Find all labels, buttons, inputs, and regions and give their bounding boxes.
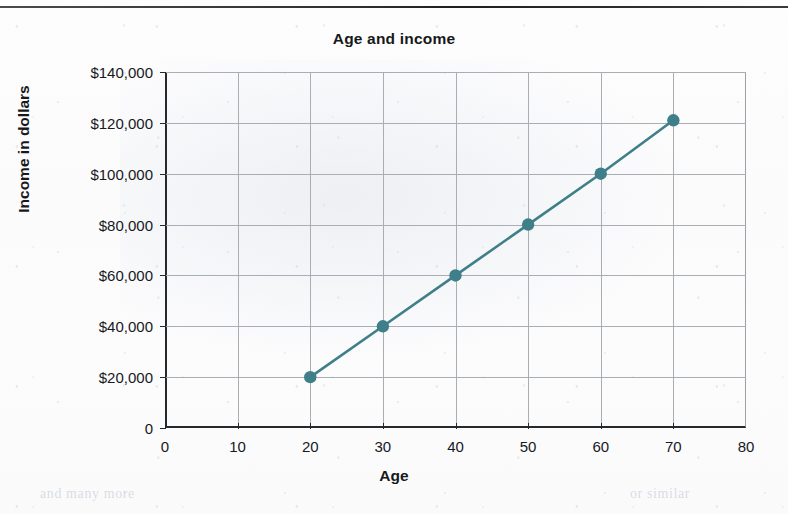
y-tick-label: $140,000: [53, 64, 153, 81]
x-tick-label: 0: [161, 438, 169, 455]
plot-area: [165, 72, 746, 428]
x-tick-mark: [673, 423, 674, 429]
y-tick-label: $60,000: [53, 267, 153, 284]
y-tick-label: $20,000: [53, 369, 153, 386]
x-tick-mark: [528, 423, 529, 429]
x-tick-label: 60: [592, 438, 609, 455]
y-tick-mark: [160, 377, 166, 378]
y-tick-label: $120,000: [53, 114, 153, 131]
x-tick-mark: [383, 423, 384, 429]
y-tick-mark: [160, 123, 166, 124]
x-tick-label: 10: [229, 438, 246, 455]
chart-title: Age and income: [0, 30, 788, 48]
y-tick-label: $40,000: [53, 318, 153, 335]
data-point-marker: [377, 320, 389, 332]
y-tick-mark: [160, 326, 166, 327]
y-axis-label: Income in dollars: [15, 29, 33, 269]
ghost-text-right: or similar: [630, 486, 690, 502]
y-tick-mark: [160, 174, 166, 175]
data-series-layer: [165, 72, 746, 428]
x-tick-mark: [456, 423, 457, 429]
series-line: [310, 120, 673, 377]
y-tick-label: $100,000: [53, 165, 153, 182]
x-tick-label: 70: [665, 438, 682, 455]
x-axis-label: Age: [0, 467, 788, 485]
data-point-marker: [595, 168, 607, 180]
x-tick-label: 30: [375, 438, 392, 455]
y-tick-label: $80,000: [53, 216, 153, 233]
data-point-marker: [304, 371, 316, 383]
x-tick-label: 80: [738, 438, 755, 455]
data-point-marker: [667, 114, 679, 126]
ghost-text-left: and many more: [40, 486, 135, 502]
y-tick-mark: [160, 275, 166, 276]
x-tick-label: 40: [447, 438, 464, 455]
x-tick-mark: [238, 423, 239, 429]
x-tick-label: 20: [302, 438, 319, 455]
y-tick-mark: [160, 72, 166, 73]
data-point-marker: [449, 269, 461, 281]
page-top-rule: [0, 6, 788, 8]
x-tick-label: 50: [520, 438, 537, 455]
x-tick-mark: [310, 423, 311, 429]
y-tick-label: 0: [53, 420, 153, 437]
data-point-marker: [522, 218, 534, 230]
x-tick-mark: [601, 423, 602, 429]
y-tick-mark: [160, 225, 166, 226]
y-tick-mark: [160, 428, 166, 429]
